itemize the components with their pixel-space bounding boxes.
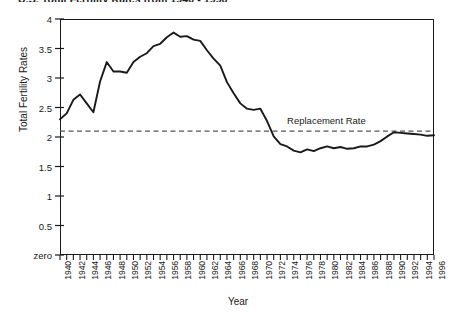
chart-figure: U.S. Total Fertility Rates from 1940 - 1… <box>0 0 476 317</box>
x-tick-label: 1994 <box>424 261 434 280</box>
x-tick-label: 1960 <box>197 261 207 280</box>
x-tick-label: 1940 <box>63 261 73 280</box>
x-tick-label: 1958 <box>183 261 193 280</box>
x-tick-label: 1956 <box>170 261 180 280</box>
x-tick-label: 1964 <box>223 261 233 280</box>
x-tick-label: 1962 <box>210 261 220 280</box>
x-tick-label: 1984 <box>357 261 367 280</box>
x-tick-label: 1996 <box>437 261 447 280</box>
x-tick-label: 1986 <box>370 261 380 280</box>
y-tick-label: 3 <box>47 73 52 84</box>
y-tick-label: 4 <box>47 14 52 25</box>
x-tick-label: 1976 <box>304 261 314 280</box>
x-axis-title: Year <box>0 296 476 307</box>
y-tick-label: 0.5 <box>39 220 52 231</box>
y-tick-marks <box>55 19 64 255</box>
x-tick-label: 1950 <box>130 261 140 280</box>
y-tick-label: 1.5 <box>39 161 52 172</box>
x-tick-label: 1952 <box>143 261 153 280</box>
x-tick-label: 1942 <box>77 261 87 280</box>
x-tick-label: 1972 <box>277 261 287 280</box>
x-tick-label: 1992 <box>410 261 420 280</box>
x-tick-label: 1974 <box>290 261 300 280</box>
y-tick-label: zero <box>34 250 52 261</box>
x-tick-label: 1944 <box>90 261 100 280</box>
y-tick-label: 3.5 <box>39 43 52 54</box>
x-tick-label: 1948 <box>117 261 127 280</box>
x-tick-label: 1980 <box>330 261 340 280</box>
y-tick-label: 2.5 <box>39 102 52 113</box>
x-tick-label: 1968 <box>250 261 260 280</box>
replacement-rate-label: Replacement Rate <box>287 115 366 126</box>
x-tick-label: 1982 <box>344 261 354 280</box>
x-tick-label: 1978 <box>317 261 327 280</box>
x-tick-label: 1988 <box>384 261 394 280</box>
x-tick-label: 1990 <box>397 261 407 280</box>
x-tick-label: 1970 <box>264 261 274 280</box>
x-tick-label: 1946 <box>103 261 113 280</box>
x-tick-label: 1954 <box>157 261 167 280</box>
y-tick-label: 1 <box>47 191 52 202</box>
fertility-rate-line <box>60 33 434 153</box>
y-tick-label: 2 <box>47 132 52 143</box>
x-tick-label: 1966 <box>237 261 247 280</box>
x-tick-marks <box>60 255 434 260</box>
